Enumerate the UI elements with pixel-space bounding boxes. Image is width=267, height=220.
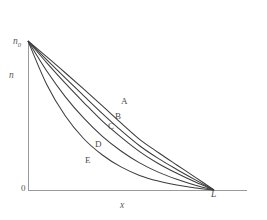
figure-container: n0 n x 0 L A B C D E <box>0 0 267 220</box>
curve-label-c: C <box>108 122 114 131</box>
curve-label-a: A <box>121 97 128 106</box>
x-axis-title: x <box>120 201 124 211</box>
origin-label: 0 <box>21 184 26 193</box>
axes-group <box>28 41 247 191</box>
curve-label-e: E <box>85 156 91 165</box>
curve-label-d: D <box>95 140 102 149</box>
y-axis-initial-value-label: n0 <box>13 37 21 48</box>
x-axis-end-label: L <box>211 190 216 200</box>
n0-subscript: 0 <box>18 41 21 48</box>
curve-label-b: B <box>115 112 121 121</box>
y-axis-title: n <box>9 71 14 81</box>
plot-canvas <box>0 0 267 220</box>
